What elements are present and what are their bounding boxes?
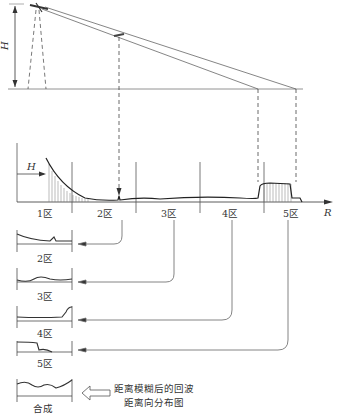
sub-plot-zone5 (17, 341, 72, 356)
svg-text:4区: 4区 (222, 208, 238, 219)
offset-label: H (26, 161, 36, 172)
axis-label-r: R (323, 207, 332, 218)
geometry-section (8, 3, 303, 196)
svg-text:2区: 2区 (97, 208, 113, 219)
range-profile (17, 143, 333, 213)
svg-text:5区: 5区 (283, 208, 299, 219)
svg-text:2区: 2区 (37, 253, 53, 264)
sub-plot-zone2 (17, 230, 72, 252)
caption-line2: 距离向分布图 (124, 397, 184, 408)
svg-text:3区: 3区 (37, 291, 53, 302)
connector-arrows (78, 220, 288, 352)
zone-labels: 1区 2区 3区 4区 5区 (37, 208, 299, 219)
sub-plot-composite (17, 379, 72, 402)
svg-text:3区: 3区 (161, 208, 177, 219)
sub-plot-zone3 (17, 268, 72, 290)
hollow-arrow-icon (82, 386, 110, 400)
svg-text:4区: 4区 (37, 328, 53, 339)
range-ambiguity-diagram: H 1区 2区 3区 4 (0, 0, 339, 419)
sub-plot-zone4 (17, 306, 72, 328)
hatching (49, 164, 291, 202)
height-label: H (0, 41, 10, 51)
svg-text:1区: 1区 (37, 208, 53, 219)
svg-text:5区: 5区 (37, 358, 53, 369)
svg-text:合成: 合成 (33, 403, 53, 414)
caption-line1: 距离模糊后的回波 (114, 383, 194, 394)
